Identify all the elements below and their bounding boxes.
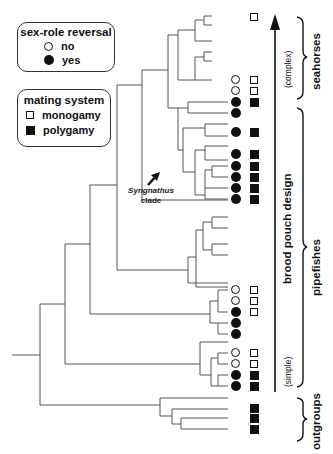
filled-square-icon bbox=[250, 195, 259, 204]
open-circle-icon bbox=[231, 296, 240, 305]
group-label-seahorses: seahorses bbox=[310, 33, 322, 90]
axis-title: brood pouch design bbox=[281, 173, 293, 284]
filled-circle-icon bbox=[231, 381, 241, 391]
group-label-outgroups: outgroups bbox=[310, 393, 322, 450]
open-square-icon bbox=[250, 297, 258, 305]
filled-square-icon bbox=[250, 184, 259, 193]
filled-square-icon bbox=[250, 414, 259, 423]
filled-circle-icon bbox=[231, 329, 241, 339]
open-square-icon bbox=[250, 76, 258, 84]
filled-circle-icon bbox=[231, 149, 241, 159]
filled-circle-icon bbox=[231, 97, 241, 107]
filled-circle-icon bbox=[231, 318, 241, 328]
filled-square-icon bbox=[250, 98, 259, 107]
syngnathus-clade-label: Syngnathus clade bbox=[116, 186, 186, 206]
open-circle-icon bbox=[231, 359, 240, 368]
open-square-icon bbox=[250, 360, 258, 368]
filled-square-icon bbox=[250, 371, 259, 380]
clade-suffix: clade bbox=[116, 196, 186, 206]
filled-circle-icon bbox=[231, 172, 241, 182]
filled-square-icon bbox=[250, 150, 259, 159]
filled-circle-icon bbox=[231, 183, 241, 193]
filled-square-icon bbox=[250, 382, 259, 391]
open-square-icon bbox=[250, 13, 258, 21]
filled-square-icon bbox=[250, 425, 259, 434]
filled-square-icon bbox=[250, 404, 259, 413]
axis-bottom-label: (simple) bbox=[283, 357, 293, 387]
group-label-pipefishes: pipefishes bbox=[310, 239, 322, 296]
filled-square-icon bbox=[250, 128, 259, 137]
filled-square-icon bbox=[250, 162, 259, 171]
open-square-icon bbox=[250, 349, 258, 357]
open-circle-icon bbox=[231, 285, 240, 294]
filled-circle-icon bbox=[231, 127, 241, 137]
filled-square-icon bbox=[250, 173, 259, 182]
open-square-icon bbox=[250, 87, 258, 95]
filled-circle-icon bbox=[231, 307, 241, 317]
open-square-icon bbox=[250, 286, 258, 294]
filled-circle-icon bbox=[231, 370, 241, 380]
clade-genus-name: Syngnathus bbox=[128, 186, 174, 195]
open-circle-icon bbox=[231, 75, 240, 84]
open-square-icon bbox=[250, 308, 258, 316]
axis-top-label: (complex) bbox=[283, 51, 293, 88]
open-circle-icon bbox=[231, 348, 240, 357]
filled-circle-icon bbox=[231, 194, 241, 204]
open-circle-icon bbox=[231, 86, 240, 95]
filled-circle-icon bbox=[231, 108, 241, 118]
filled-circle-icon bbox=[231, 161, 241, 171]
